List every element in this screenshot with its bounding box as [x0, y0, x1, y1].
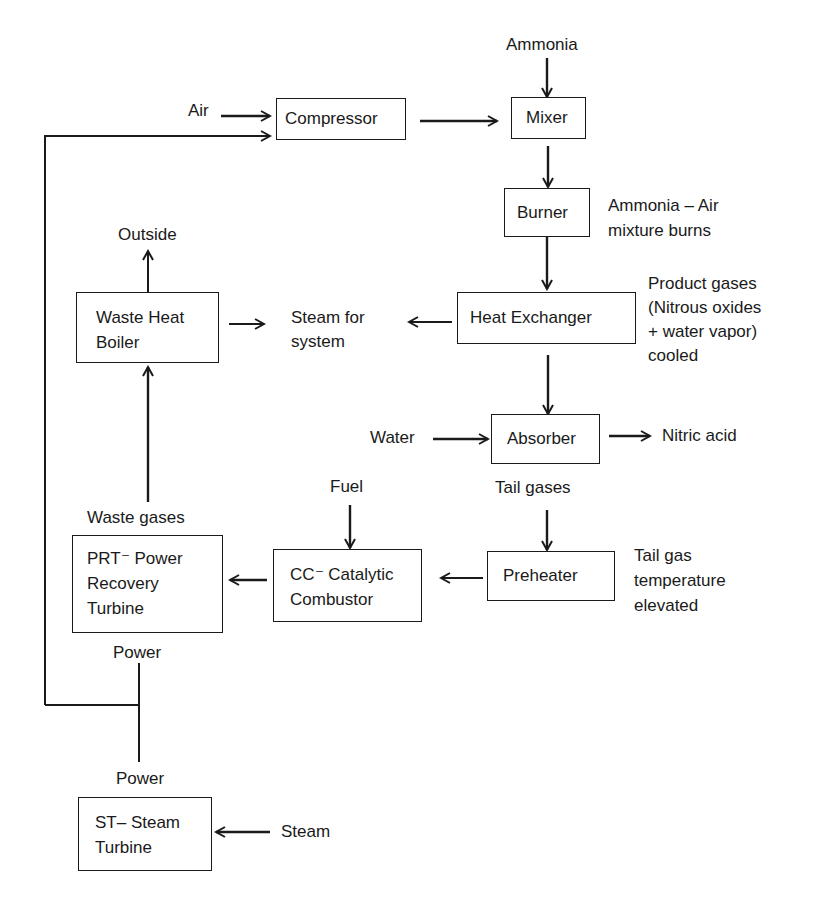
- waste-gases-label: Waste gases: [87, 507, 185, 528]
- power-recovery-turbine-block: PRT⁻ Power Recovery Turbine: [72, 535, 223, 633]
- burner-block: Burner: [504, 188, 590, 237]
- preheater-block: Preheater: [487, 551, 615, 601]
- power-prt-label: Power: [113, 642, 161, 663]
- heat-exchanger-label: Heat Exchanger: [470, 307, 592, 328]
- waste-heat-boiler-block: Waste Heat Boiler: [76, 292, 219, 363]
- steam-label: Steam: [281, 821, 330, 842]
- compressor-label: Compressor: [285, 108, 378, 129]
- power-recovery-turbine-label: PRT⁻ Power Recovery Turbine: [87, 546, 183, 621]
- nitric-acid-label: Nitric acid: [662, 425, 737, 446]
- product-gases-note: Product gases (Nitrous oxides + water va…: [648, 272, 761, 368]
- heat-exchanger-block: Heat Exchanger: [457, 292, 636, 344]
- steam-turbine-label: ST– Steam Turbine: [95, 810, 180, 860]
- air-label: Air: [188, 100, 209, 121]
- mixer-label: Mixer: [526, 107, 568, 128]
- catalytic-combustor-block: CC⁻ Catalytic Combustor: [273, 549, 422, 622]
- water-label: Water: [370, 427, 415, 448]
- power-st-label: Power: [116, 768, 164, 789]
- outside-label: Outside: [118, 224, 177, 245]
- ammonia-air-note: Ammonia – Air mixture burns: [608, 193, 719, 243]
- preheater-label: Preheater: [503, 565, 578, 586]
- waste-heat-boiler-label: Waste Heat Boiler: [96, 305, 184, 355]
- process-flow-diagram: Compressor Mixer Burner Heat Exchanger W…: [0, 0, 817, 913]
- absorber-label: Absorber: [507, 428, 576, 449]
- mixer-block: Mixer: [511, 97, 586, 139]
- absorber-block: Absorber: [491, 414, 600, 464]
- tail-gas-note: Tail gas temperature elevated: [634, 543, 726, 618]
- tail-gases-label: Tail gases: [495, 477, 571, 498]
- compressor-block: Compressor: [276, 98, 406, 140]
- ammonia-label: Ammonia: [506, 34, 578, 55]
- steam-turbine-block: ST– Steam Turbine: [78, 797, 212, 871]
- burner-label: Burner: [517, 202, 568, 223]
- fuel-label: Fuel: [330, 476, 363, 497]
- steam-for-system-label: Steam for system: [291, 306, 365, 354]
- catalytic-combustor-label: CC⁻ Catalytic Combustor: [290, 562, 393, 612]
